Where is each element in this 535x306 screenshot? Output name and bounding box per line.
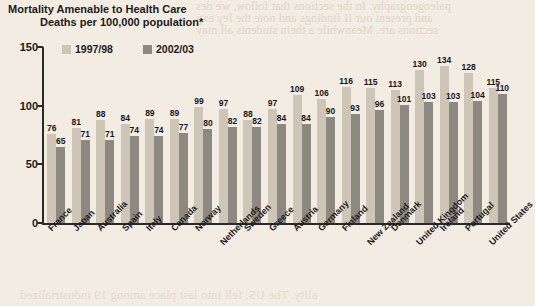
- bar: 115: [489, 47, 498, 223]
- bar: 101: [400, 47, 409, 223]
- bar-value-label: 89: [145, 108, 154, 118]
- bar-value-label: 82: [228, 116, 237, 126]
- bar: 74: [154, 47, 163, 223]
- x-axis-category-labels: FranceJapanAustraliaSpainItalyCanadaNorw…: [44, 226, 514, 304]
- bar: 88: [243, 47, 252, 223]
- bar: 110: [498, 47, 507, 223]
- y-axis-tick-label: 100: [20, 100, 38, 112]
- bar-rect: [317, 99, 326, 223]
- y-axis-tick-mark: [37, 222, 43, 224]
- bar-value-label: 97: [268, 98, 277, 108]
- bar: 97: [268, 47, 277, 223]
- bar-value-label: 101: [397, 94, 411, 104]
- bar: 82: [252, 47, 261, 223]
- bar-value-label: 71: [81, 129, 90, 139]
- bar-value-label: 89: [170, 108, 179, 118]
- bar-value-label: 76: [47, 123, 56, 133]
- bar-value-label: 84: [277, 113, 286, 123]
- bar-value-label: 88: [96, 109, 105, 119]
- bar-value-label: 84: [121, 113, 130, 123]
- bar-group: 8882: [243, 47, 261, 223]
- bar-rect: [424, 102, 433, 223]
- bar: 71: [105, 47, 114, 223]
- y-axis-tick-labels: 050100150: [6, 47, 38, 223]
- bar: 93: [351, 47, 360, 223]
- bar-rect: [219, 109, 228, 223]
- bar-group: 9980: [194, 47, 212, 223]
- bar-group: 134103: [440, 47, 458, 223]
- chart-subtitle: Deaths per 100,000 population*: [40, 16, 203, 29]
- bar-value-label: 65: [56, 136, 65, 146]
- bar: 89: [170, 47, 179, 223]
- bar: 71: [81, 47, 90, 223]
- y-axis-tick-mark: [37, 46, 43, 48]
- bar-group: 115110: [489, 47, 507, 223]
- bar: 82: [228, 47, 237, 223]
- bar: 109: [293, 47, 302, 223]
- bar-group: 10984: [293, 47, 311, 223]
- bar: 115: [366, 47, 375, 223]
- bar-rect: [375, 110, 384, 223]
- bar-value-label: 84: [301, 113, 310, 123]
- y-axis-tick-mark: [37, 105, 43, 107]
- bar: 76: [47, 47, 56, 223]
- bar-rect: [498, 94, 507, 223]
- bar-value-label: 80: [203, 118, 212, 128]
- bar-value-label: 103: [446, 91, 460, 101]
- bar: 103: [424, 47, 433, 223]
- bar-value-label: 93: [350, 103, 359, 113]
- bar: 99: [194, 47, 203, 223]
- bar-group: 11596: [366, 47, 384, 223]
- bar: 84: [121, 47, 130, 223]
- bar: 65: [56, 47, 65, 223]
- chart-title: Mortality Amenable to Health Care: [8, 3, 187, 15]
- bar-rect: [72, 128, 81, 223]
- bar: 113: [391, 47, 400, 223]
- bar-group: 10690: [317, 47, 335, 223]
- bar: 116: [342, 47, 351, 223]
- bar: 96: [375, 47, 384, 223]
- bar-rect: [170, 119, 179, 223]
- bar-group: 113101: [391, 47, 409, 223]
- y-axis-tick-mark: [37, 163, 43, 165]
- bar-value-label: 99: [194, 96, 203, 106]
- bar-group: 130103: [415, 47, 433, 223]
- bar: 130: [415, 47, 424, 223]
- bar: 90: [326, 47, 335, 223]
- plot-area: 050100150 766581718871847489748977998097…: [44, 47, 510, 223]
- bar: 81: [72, 47, 81, 223]
- bar-rect: [391, 90, 400, 223]
- bar: 80: [203, 47, 212, 223]
- bar-value-label: 74: [130, 125, 139, 135]
- bar: 88: [96, 47, 105, 223]
- bar: 84: [302, 47, 311, 223]
- bar-group: 11693: [342, 47, 360, 223]
- bar-rect: [96, 120, 105, 223]
- bar: 74: [130, 47, 139, 223]
- bar-value-label: 90: [326, 106, 335, 116]
- bar-value-label: 96: [375, 99, 384, 109]
- bar: 89: [145, 47, 154, 223]
- bar-value-label: 103: [422, 91, 436, 101]
- bar-rect: [154, 136, 163, 223]
- bar-rect: [366, 88, 375, 223]
- bar-group: 9784: [268, 47, 286, 223]
- bar-value-label: 71: [105, 129, 114, 139]
- bar-rect: [440, 66, 449, 223]
- bar-value-label: 81: [72, 117, 81, 127]
- bars-layer: 7665817188718474897489779980978288829784…: [44, 47, 510, 223]
- bar: 134: [440, 47, 449, 223]
- bar-rect: [293, 95, 302, 223]
- bar: 104: [473, 47, 482, 223]
- bar: 84: [277, 47, 286, 223]
- bar-group: 8871: [96, 47, 114, 223]
- chart-title-block: Mortality Amenable to Health Care Deaths…: [8, 3, 203, 29]
- bar-rect: [473, 101, 482, 223]
- bar-value-label: 110: [495, 83, 509, 93]
- bar-group: 7665: [47, 47, 65, 223]
- bar-value-label: 97: [219, 98, 228, 108]
- bar-rect: [228, 127, 237, 223]
- bar-rect: [145, 119, 154, 223]
- bar-value-label: 104: [471, 90, 485, 100]
